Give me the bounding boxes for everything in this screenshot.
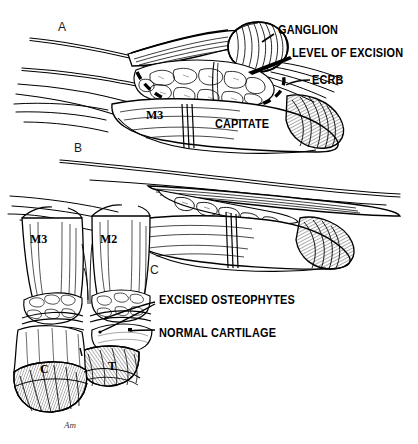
surgical-illustration-figure: A GANGLION LEVEL OF EXCISION ECRB M3 CAP…	[0, 0, 418, 444]
leader-tip-osteophyte	[104, 316, 107, 319]
label-capitate-short: C	[40, 362, 49, 376]
artist-signature: Am	[63, 420, 76, 430]
label-trapezoid-short: T	[108, 359, 116, 373]
label-level-of-excision: LEVEL OF EXCISION	[292, 45, 403, 60]
label-ecrb: ECRB	[312, 72, 344, 87]
panel-marker-c: C	[150, 263, 159, 277]
leader-tip-cartilage	[128, 328, 132, 331]
label-m3-panel-a: M3	[146, 108, 163, 122]
label-ganglion: GANGLION	[278, 22, 338, 37]
label-capitate: CAPITATE	[215, 116, 269, 131]
panel-marker-b: B	[74, 141, 82, 155]
label-m2-panel-c: M2	[100, 232, 117, 246]
illustration-canvas: A GANGLION LEVEL OF EXCISION ECRB M3 CAP…	[0, 0, 418, 444]
label-excised-osteophytes: EXCISED OSTEOPHYTES	[159, 292, 295, 307]
leader-tip-osteophyte-2	[98, 330, 101, 333]
label-m3-panel-c: M3	[30, 232, 47, 246]
label-normal-cartilage: NORMAL CARTILAGE	[159, 325, 276, 340]
panel-marker-a: A	[58, 20, 66, 34]
